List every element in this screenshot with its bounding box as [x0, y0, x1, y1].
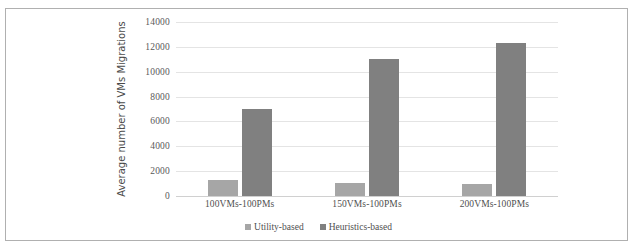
- y-axis-tick-label: 10000: [145, 67, 170, 77]
- y-axis-tick-label: 2000: [150, 166, 170, 176]
- legend-label: Heuristics-based: [329, 222, 392, 232]
- bar-series-container: [176, 22, 558, 196]
- x-axis-tick-labels: 100VMs-100PMs150VMs-100PMs200VMs-100PMs: [176, 199, 558, 215]
- legend-item[interactable]: Utility-based: [245, 222, 304, 232]
- legend-swatch-icon: [320, 224, 326, 230]
- y-axis-tick-label: 14000: [145, 17, 170, 27]
- gridline: [176, 196, 558, 197]
- y-axis-title: Average number of VMs Migrations: [112, 22, 130, 196]
- y-axis-tick-label: 4000: [150, 141, 170, 151]
- y-axis-tick-label: 6000: [150, 116, 170, 126]
- bar[interactable]: [335, 183, 365, 196]
- bar[interactable]: [242, 109, 272, 196]
- legend-swatch-icon: [245, 224, 251, 230]
- legend-label: Utility-based: [254, 222, 304, 232]
- bar[interactable]: [496, 43, 526, 196]
- x-axis-tick-label: 150VMs-100PMs: [332, 199, 401, 209]
- legend-item[interactable]: Heuristics-based: [320, 222, 392, 232]
- bar[interactable]: [462, 184, 492, 196]
- x-axis-tick-label: 200VMs-100PMs: [460, 199, 529, 209]
- bar-group: [208, 22, 272, 196]
- y-axis-tick-label: 8000: [150, 92, 170, 102]
- bar-group: [335, 22, 399, 196]
- chart-figure: Average number of VMs Migrations 0200040…: [0, 0, 637, 244]
- plot-area: 02000400060008000100001200014000: [176, 22, 558, 196]
- x-axis-tick-label: 100VMs-100PMs: [205, 199, 274, 209]
- y-axis-tick-label: 0: [165, 191, 170, 201]
- bar[interactable]: [208, 180, 238, 196]
- chart-legend: Utility-basedHeuristics-based: [0, 222, 637, 232]
- bar-group: [462, 22, 526, 196]
- y-axis-tick-label: 12000: [145, 42, 170, 52]
- bar[interactable]: [369, 59, 399, 196]
